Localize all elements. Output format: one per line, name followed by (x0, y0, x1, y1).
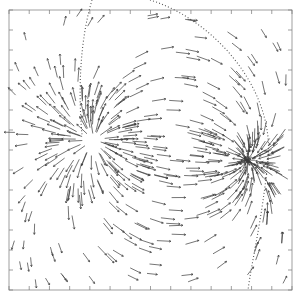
vector-arrows (4, 9, 288, 288)
vector-field-plot (0, 0, 306, 299)
